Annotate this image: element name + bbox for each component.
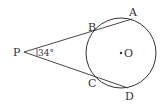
label-c: C: [88, 77, 96, 90]
label-d: D: [125, 90, 134, 103]
center-dot: [120, 52, 122, 54]
label-o: O: [124, 47, 133, 60]
label-p: P: [13, 46, 21, 59]
label-b: B: [88, 21, 96, 34]
label-a: A: [128, 6, 138, 19]
geometry-diagram: P 34° B A O C D: [0, 0, 166, 108]
label-angle: 34°: [38, 48, 54, 58]
